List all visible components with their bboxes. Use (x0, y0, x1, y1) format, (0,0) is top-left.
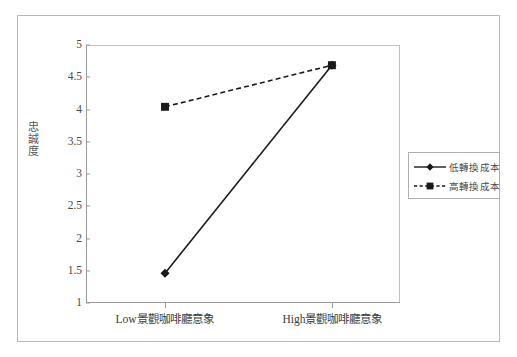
y-axis-tick-label: 3 (50, 168, 82, 180)
y-axis-tick-mark (86, 174, 90, 175)
data-point-square-marker (328, 61, 336, 69)
legend-label-low-switching-cost: 低轉換成本 (449, 160, 500, 174)
y-axis-tick-label: 2 (50, 233, 82, 245)
y-axis-tick-labels: 11.522.533.544.55 (46, 45, 82, 303)
series-line (165, 65, 332, 107)
y-axis-tick-label: 4.5 (50, 72, 82, 84)
y-axis-tick-mark (86, 303, 90, 304)
interaction-plot-figure: 忠誠度 11.522.533.544.55 Low景觀咖啡廳意象High景觀咖啡… (0, 0, 517, 357)
legend-box: 低轉換成本 高轉換成本 (408, 152, 500, 199)
y-axis-tick-label: 5 (50, 39, 82, 51)
legend-swatch-dashed-square-icon (413, 179, 447, 193)
legend-item-0[interactable]: 低轉換成本 (413, 157, 495, 176)
plot-canvas (87, 46, 399, 302)
plot-area (86, 45, 400, 303)
y-axis-tick-mark (86, 45, 90, 46)
y-axis-tick-label: 3.5 (50, 136, 82, 148)
y-axis-tick-label: 4 (50, 104, 82, 116)
series-line (165, 65, 332, 273)
x-axis-tick-mark (165, 303, 166, 308)
legend-swatch-solid-diamond-icon (413, 160, 447, 174)
legend-item-1[interactable]: 高轉換成本 (413, 176, 495, 195)
x-axis-tick-label: Low景觀咖啡廳意象 (115, 310, 213, 326)
y-axis-tick-label: 1 (50, 297, 82, 309)
data-point-square-marker (161, 103, 169, 111)
legend-label-high-switching-cost: 高轉換成本 (449, 179, 500, 193)
y-axis-tick-mark (86, 206, 90, 207)
y-axis-tick-mark (86, 77, 90, 78)
x-axis-tick-label: High景觀咖啡廳意象 (282, 310, 382, 326)
y-axis-tick-mark (86, 238, 90, 239)
y-axis-title: 忠誠度 (22, 121, 38, 157)
y-axis-tick-mark (86, 141, 90, 142)
y-axis-tick-mark (86, 109, 90, 110)
y-axis-tick-label: 2.5 (50, 201, 82, 213)
series-high-switching-cost (161, 61, 336, 111)
y-axis-tick-label: 1.5 (50, 265, 82, 277)
series-low-switching-cost (160, 61, 336, 278)
x-axis-tick-mark (332, 303, 333, 308)
y-axis-tick-mark (86, 270, 90, 271)
